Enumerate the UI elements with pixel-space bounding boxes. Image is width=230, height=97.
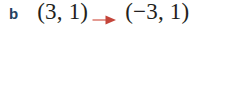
expression-right-coordinate-pair: (−3, 1): [125, 0, 189, 23]
problem-statement-row: b (3, 1) (−3, 1): [0, 0, 230, 40]
part-label-b: b: [9, 6, 18, 21]
right-arrow-glyph: [92, 14, 117, 26]
right-arrow-icon: [92, 14, 117, 26]
expression-left-coordinate-pair: (3, 1): [37, 0, 88, 23]
arrow-head: [106, 16, 117, 25]
